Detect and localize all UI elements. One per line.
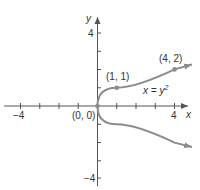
x-tick-label-neg4: −4 [13, 110, 25, 121]
point-1-1 [114, 85, 119, 90]
y-tick-label-neg4: −4 [84, 173, 96, 184]
point-4-2-label: (4, 2) [159, 53, 182, 64]
point-4-2 [172, 67, 177, 72]
y-axis-label: y [85, 13, 92, 24]
x-tick-label-4: 4 [171, 110, 177, 121]
point-1-1-label: (1, 1) [106, 71, 129, 82]
equation-base: x = y [142, 85, 165, 96]
origin-label: (0, 0) [72, 110, 95, 121]
x-axis-label: x [185, 109, 192, 120]
parabola-lower-branch [98, 106, 193, 147]
y-tick-label-4: 4 [88, 28, 94, 39]
point-origin [95, 104, 100, 109]
equation-label: x = y2 [142, 84, 168, 96]
parabola-chart: y x 4 −4 −4 4 (0, 0) (1, 1) (4, 2) x = y… [0, 0, 200, 190]
equation-exponent: 2 [163, 84, 168, 91]
